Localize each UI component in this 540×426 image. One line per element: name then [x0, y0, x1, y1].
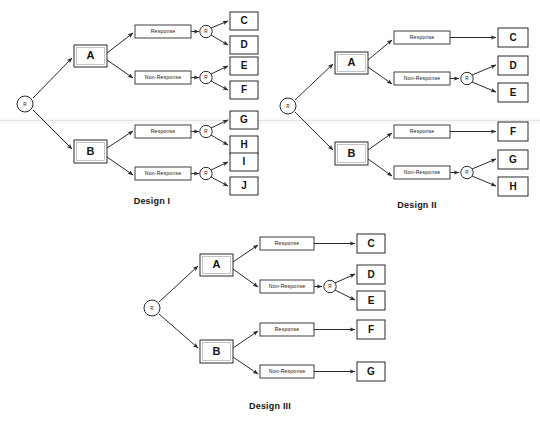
outcome-label: D [240, 39, 247, 50]
outcome-label: C [367, 238, 374, 249]
design-3-b-nonresponse-box: Non-Response [260, 365, 314, 378]
edge-root-to-a [33, 58, 72, 98]
b-nonresponse-label: Non-Response [404, 169, 440, 175]
edge-r4-to-j [211, 177, 228, 186]
a-nonresponse-label: Non-Response [404, 75, 440, 81]
edge-root-to-a [159, 266, 198, 302]
design-3-a-response-box: Response [260, 237, 314, 250]
edge-a-to-response [107, 33, 133, 53]
edge-a-to-nonresponse [107, 60, 133, 78]
design-2-group: R A B Response Non-Response Respons [280, 28, 528, 210]
design-1-outcome-h: H [230, 136, 258, 154]
a-nonresponse-label: Non-Response [145, 74, 181, 80]
design-3-group: R A B Response Non-Response Respons [144, 234, 385, 411]
edge-b-to-response [233, 331, 258, 348]
edge-a-to-nonresponse [233, 269, 258, 287]
design-2-b-nonresponse-box: Non-Response [394, 166, 450, 179]
outcome-label: H [509, 181, 516, 192]
sequential-randomization-designs-figure: R A B Response Non-Response [0, 0, 540, 426]
edge-r1-to-d [335, 274, 355, 283]
edge-root-to-b [33, 110, 72, 149]
design-3-root-randomization-node: R [144, 300, 160, 316]
b-nonresponse-label: Non-Response [145, 170, 181, 176]
outcome-label: I [243, 156, 246, 167]
design-2-outcome-h: H [498, 177, 528, 196]
arm-b-label: B [213, 345, 221, 357]
design-3-outcome-e: E [357, 291, 385, 310]
design-1-root-randomization-node: R [17, 96, 33, 112]
design-2-a-nonresponse-box: Non-Response [394, 72, 450, 85]
edge-r3-to-h [211, 135, 228, 145]
edge-root-to-b [295, 112, 333, 150]
edge-b-to-nonresponse [233, 357, 258, 374]
design-3-outcome-d: D [357, 265, 385, 284]
outcome-label: E [368, 295, 375, 306]
design-1-outcome-j: J [230, 177, 258, 195]
design-2-outcome-c: C [498, 28, 528, 47]
edge-a-to-nonresponse [368, 67, 392, 84]
design-1-rerandomization-node-4: R [200, 167, 212, 179]
design-3-outcome-c: C [357, 234, 385, 253]
outcome-label: D [367, 269, 374, 280]
edge-r1-to-d [211, 35, 228, 45]
arm-a-label: A [87, 49, 95, 61]
design-1-a-response-box: Response [135, 25, 191, 38]
design-2-outcome-d: D [498, 56, 528, 75]
design-1-b-response-box: Response [135, 125, 191, 138]
outcome-label: F [510, 126, 516, 137]
design-1-outcome-e: E [230, 57, 258, 75]
design-1-rerandomization-node-3: R [200, 125, 212, 137]
edge-root-to-b [159, 314, 198, 348]
outcome-label: E [241, 60, 248, 71]
design-3-arm-a-box: A [200, 254, 233, 276]
edge-r1-to-e [472, 82, 496, 92]
outcome-label: F [241, 84, 247, 95]
a-response-label: Response [275, 240, 300, 246]
outcome-label: E [510, 87, 517, 98]
design-3-arm-b-box: B [200, 340, 233, 363]
outcome-label: C [240, 15, 247, 26]
design-2-caption: Design II [397, 200, 436, 210]
b-nonresponse-label: Non-Response [269, 368, 305, 374]
design-2-arm-a-box: A [335, 52, 368, 74]
design-1-arm-b-box: B [74, 140, 107, 163]
edge-a-to-response [233, 245, 258, 262]
design-1-caption: Design I [134, 196, 171, 206]
edge-b-to-response [107, 131, 133, 148]
design-2-arm-b-box: B [335, 142, 368, 165]
outcome-label: D [509, 60, 516, 71]
edge-r1-to-e [335, 290, 355, 300]
arm-a-label: A [213, 258, 221, 270]
arm-b-label: B [87, 145, 95, 157]
design-1-outcome-c: C [230, 12, 258, 30]
edge-a-to-response [368, 40, 392, 60]
design-2-rerandomization-node-1: R [461, 72, 473, 84]
design-3-caption: Design III [249, 401, 291, 411]
edge-b-to-nonresponse [107, 157, 133, 175]
design-1-outcome-i: I [230, 153, 258, 171]
design-2-rerandomization-node-2: R [461, 166, 473, 178]
design-3-outcome-g: G [357, 362, 385, 381]
design-2-outcome-f: F [498, 122, 528, 141]
design-3-a-nonresponse-box: Non-Response [260, 280, 314, 293]
outcome-label: J [241, 180, 247, 191]
b-response-label: Response [151, 128, 176, 134]
design-1-arm-a-box: A [74, 45, 107, 67]
edge-r4-to-i [211, 162, 228, 170]
outcome-label: H [240, 139, 247, 150]
design-1-outcome-g: G [230, 111, 258, 129]
design-2-outcome-e: E [498, 83, 528, 102]
edge-b-to-nonresponse [368, 159, 392, 176]
edge-b-to-response [368, 133, 392, 150]
edge-r1-to-d [472, 65, 496, 75]
a-response-label: Response [151, 28, 176, 34]
outcome-label: C [509, 32, 516, 43]
outcome-label: F [368, 324, 374, 335]
b-response-label: Response [275, 326, 300, 332]
design-2-b-response-box: Response [394, 125, 450, 138]
outcome-label: G [240, 114, 248, 125]
edge-r2-to-e [211, 66, 228, 74]
design-1-rerandomization-node-1: R [200, 25, 212, 37]
design-1-rerandomization-node-2: R [200, 71, 212, 83]
design-1-b-nonresponse-box: Non-Response [135, 167, 191, 180]
